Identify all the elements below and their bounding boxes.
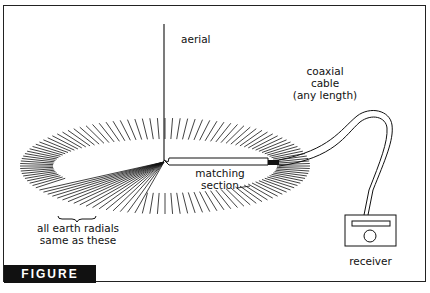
radial-wire: [74, 162, 164, 203]
coaxial-cable-label-line1: coaxial: [285, 65, 365, 77]
radial-wire: [252, 136, 278, 149]
radial-wire: [43, 140, 71, 151]
radial-wire: [262, 142, 291, 153]
radial-wire: [57, 134, 82, 148]
radials-label: all earth radials same as these: [28, 222, 128, 246]
radial-wire: [106, 122, 119, 141]
radial-wire: [188, 192, 195, 213]
coaxial-cable: [279, 110, 392, 215]
radial-wire: [262, 180, 291, 191]
radial-wire: [113, 121, 125, 141]
radial-wire: [157, 118, 159, 139]
radial-wire: [248, 134, 273, 148]
matching-section-label: matching section: [190, 167, 250, 191]
radial-wire: [171, 118, 173, 139]
radial-wire: [99, 123, 114, 142]
radial-wire: [216, 190, 231, 209]
radial-wire: [171, 193, 173, 214]
radial-wire: [211, 122, 224, 141]
receiver-icon: [345, 215, 396, 246]
radial-wire: [252, 183, 278, 196]
radial-wire: [211, 191, 224, 210]
figure-caption: FIGURE 3.20: [4, 265, 96, 283]
coaxial-cable-label-line3: (any length): [285, 89, 365, 101]
radial-wire: [183, 193, 188, 214]
coaxial-cable-label-line2: cable: [285, 77, 365, 89]
radial-wire: [177, 193, 180, 214]
earth-radials: [20, 118, 310, 214]
radial-wire: [183, 119, 188, 140]
radial-wire: [277, 167, 310, 168]
radial-wire: [52, 136, 78, 149]
radial-wire: [188, 119, 195, 140]
radial-wire: [205, 121, 217, 141]
radial-wire: [20, 167, 53, 168]
radial-wire: [48, 138, 75, 150]
matching-section-label-line2: section: [190, 179, 250, 191]
radial-wire: [20, 163, 53, 164]
radial-wire: [150, 118, 153, 139]
matching-section: [164, 158, 279, 165]
radial-wire: [157, 193, 159, 214]
matching-section-label-line1: matching: [190, 167, 250, 179]
radial-wire: [135, 119, 142, 140]
coaxial-cable-label: coaxial cable (any length): [285, 65, 365, 101]
radial-wire: [150, 193, 153, 214]
radial-wire: [259, 181, 287, 192]
radial-wire: [177, 118, 180, 139]
radial-wire: [256, 138, 283, 150]
radial-wire: [205, 191, 217, 211]
radial-wire: [216, 123, 231, 142]
radial-wire: [259, 140, 287, 151]
antenna-diagram: [0, 0, 430, 293]
radial-wire: [248, 184, 273, 198]
cable-connector: [268, 160, 279, 165]
aerial-label: aerial: [181, 33, 210, 45]
radials-label-line1: all earth radials: [28, 222, 128, 234]
radial-wire: [39, 142, 68, 153]
radials-label-line2: same as these: [28, 234, 128, 246]
radial-wire: [256, 182, 283, 194]
radial-wire: [142, 119, 147, 140]
receiver-label: receiver: [345, 255, 396, 267]
